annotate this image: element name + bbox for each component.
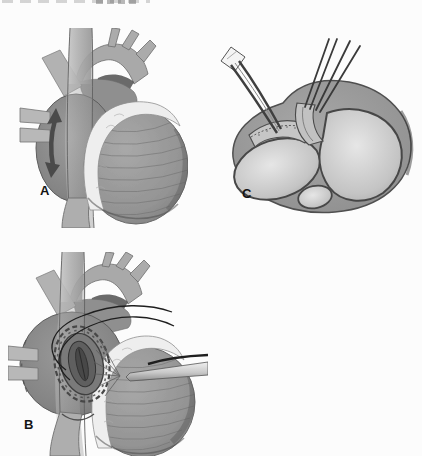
ivc-segment [62,198,90,228]
panel-b-illustration [8,252,208,456]
right-ventricle [84,102,188,224]
panel-label-a: A [40,184,50,197]
figure-page: A B C [0,0,422,456]
panel-b-heart-drawing [8,252,208,456]
panel-a-heart-drawing [18,28,188,228]
panel-label-c: C [242,187,252,200]
panel-label-b: B [24,418,34,431]
panel-a-illustration [18,28,188,228]
ivc-segment [50,412,82,456]
clipped-text-artifact [96,0,140,4]
